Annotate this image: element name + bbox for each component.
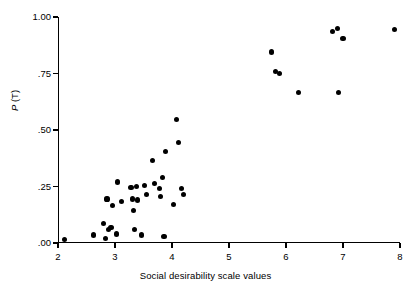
x-axis-title: Social desirability scale values: [0, 270, 411, 281]
data-point: [152, 181, 157, 186]
data-point: [104, 196, 109, 201]
x-axis-tick: [399, 243, 400, 248]
x-axis-tick-label: 2: [48, 252, 68, 262]
plot-area: [58, 17, 400, 243]
data-point: [144, 192, 149, 197]
data-point: [150, 158, 155, 163]
y-axis-tick-label: .50: [17, 125, 51, 135]
x-axis-tick-label: 3: [105, 252, 125, 262]
y-axis-tick: [53, 16, 58, 17]
x-axis-tick-label: 4: [162, 252, 182, 262]
y-axis-title: P (T): [9, 71, 20, 131]
x-axis-tick-label: 7: [333, 252, 353, 262]
y-axis-tick-label: 1.00: [17, 12, 51, 22]
y-axis-line: [58, 17, 59, 243]
data-point: [161, 234, 166, 239]
x-axis-tick: [342, 243, 343, 248]
y-axis-tick: [53, 73, 58, 74]
data-point: [163, 149, 168, 154]
y-axis-title-rest: (T): [9, 90, 20, 105]
data-point: [134, 184, 139, 189]
data-point: [119, 199, 124, 204]
data-point: [115, 179, 120, 184]
y-axis-tick: [53, 129, 58, 130]
data-point: [130, 196, 135, 201]
scatter-plot-figure: .00.25.50.751.002345678 P (T) Social des…: [0, 0, 411, 300]
data-point: [131, 208, 136, 213]
data-point: [139, 232, 144, 237]
x-axis-tick: [285, 243, 286, 248]
data-point: [114, 231, 119, 236]
x-axis-tick-label: 8: [390, 252, 410, 262]
data-point: [91, 232, 96, 237]
x-axis-tick-label: 5: [219, 252, 239, 262]
data-point: [128, 185, 133, 190]
x-axis-tick-label: 6: [276, 252, 296, 262]
data-point: [110, 203, 115, 208]
data-point: [174, 117, 179, 122]
y-axis-tick-label: .00: [17, 238, 51, 248]
x-axis-tick: [228, 243, 229, 248]
data-point: [179, 186, 184, 191]
data-point: [160, 175, 165, 180]
data-point: [176, 140, 181, 145]
data-point: [135, 197, 140, 202]
y-axis-tick: [53, 186, 58, 187]
y-axis-tick-label: .75: [17, 69, 51, 79]
data-point: [335, 26, 340, 31]
data-point: [171, 202, 176, 207]
data-point: [336, 90, 341, 95]
y-axis-tick-label: .25: [17, 182, 51, 192]
data-point: [101, 221, 106, 226]
data-point: [181, 192, 186, 197]
data-point: [132, 227, 137, 232]
data-point: [142, 183, 147, 188]
data-point: [277, 71, 282, 76]
x-axis-tick: [171, 243, 172, 248]
data-point: [108, 225, 113, 230]
data-point: [157, 186, 162, 191]
data-point: [158, 194, 163, 199]
data-point: [392, 27, 397, 32]
x-axis-tick: [114, 243, 115, 248]
x-axis-tick: [57, 243, 58, 248]
data-point: [103, 236, 108, 241]
data-point: [269, 49, 274, 54]
data-point: [340, 36, 345, 41]
y-axis-title-symbol: P: [9, 105, 20, 111]
data-point: [296, 90, 301, 95]
